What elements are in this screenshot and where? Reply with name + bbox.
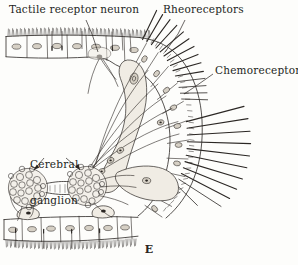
label-chemoreceptors: Chemoreceptors bbox=[215, 64, 298, 76]
label-rheoreceptors: Rheoreceptors bbox=[163, 3, 244, 15]
rheoreceptor-bristles bbox=[143, 10, 208, 99]
leader-chemo bbox=[184, 74, 213, 94]
figure-caption: E bbox=[0, 243, 298, 256]
label-cerebral-ganglion-line2: ganglion bbox=[30, 194, 78, 206]
figure-container: .ink { stroke:#2b2724; fill:none; stroke… bbox=[0, 0, 298, 265]
label-cerebral-ganglion-line1: Cerebral bbox=[30, 158, 78, 170]
label-tactile-receptor-neuron: Tactile receptor neuron bbox=[9, 3, 139, 15]
chemoreceptor-bristles bbox=[176, 106, 251, 206]
label-cerebral-ganglion: Cerebral ganglion bbox=[30, 134, 78, 231]
